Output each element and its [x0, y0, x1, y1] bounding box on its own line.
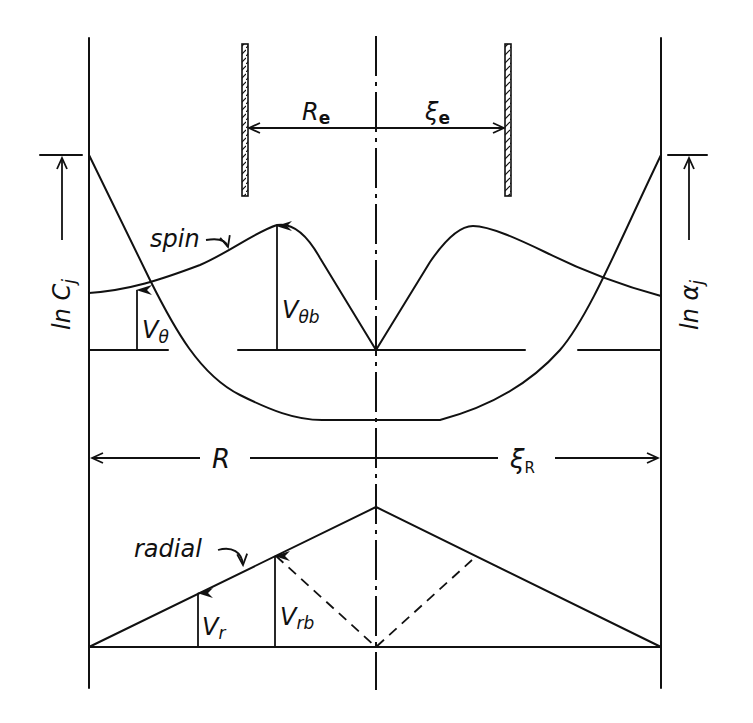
spin-leader: [206, 239, 228, 247]
diagram-svg: Re ξe ln Cj ln αj spin Vθ Vθb R ξR radia…: [0, 0, 753, 723]
v-theta-label: Vθ: [142, 316, 169, 347]
diagram-canvas: Re ξe ln Cj ln αj spin Vθ Vθb R ξR radia…: [0, 0, 753, 723]
re-label: Re: [302, 98, 330, 128]
right-baffle: [505, 44, 511, 196]
xir-label: ξR: [509, 444, 535, 477]
v-theta-b-label: Vθb: [282, 296, 320, 327]
radial-label: radial: [134, 535, 202, 563]
left-baffle: [242, 44, 248, 196]
radial-leader: [218, 549, 243, 565]
spin-label: spin: [150, 225, 200, 253]
xie-label: ξe: [424, 98, 450, 128]
ln-c-label: ln Cj: [48, 279, 79, 330]
r-label: R: [212, 444, 230, 474]
radial-mirror-dashed: [276, 556, 472, 647]
ln-alpha-label: ln αj: [676, 280, 707, 330]
v-r-label: Vr: [202, 613, 226, 643]
v-rb-label: Vrb: [280, 603, 314, 633]
